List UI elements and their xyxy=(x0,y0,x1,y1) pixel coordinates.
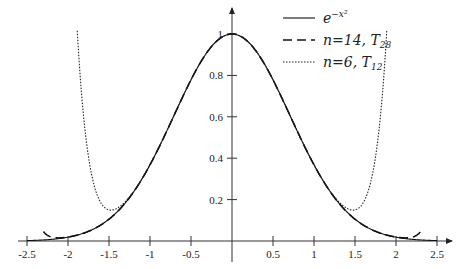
y-axis: 0.20.40.60.81 xyxy=(209,8,237,262)
x-tick: 0.5 xyxy=(266,236,280,260)
x-tick: 1 xyxy=(311,236,317,260)
legend-item: e−x² xyxy=(283,9,348,26)
y-tick: 0.2 xyxy=(209,194,237,206)
legend-item: n=14, T28 xyxy=(283,32,392,50)
x-tick-label: -1 xyxy=(145,248,154,260)
y-tick-label: 0.6 xyxy=(209,111,223,123)
y-tick-label: 0.8 xyxy=(209,69,223,81)
x-tick: 2 xyxy=(393,236,399,260)
x-tick-label: -2 xyxy=(63,248,72,260)
y-tick-label: 0.2 xyxy=(209,194,223,206)
chart: -2.5-2-1.5-1-0.50.511.522.5 0.20.40.60.8… xyxy=(0,0,457,269)
legend-item: n=6, T12 xyxy=(283,54,383,72)
legend-label: n=14, T28 xyxy=(323,32,392,50)
x-axis: -2.5-2-1.5-1-0.50.511.522.5 xyxy=(18,236,452,260)
y-tick: 0.6 xyxy=(209,111,237,123)
y-tick-label: 0.4 xyxy=(209,152,223,164)
x-ticks: -2.5-2-1.5-1-0.50.511.522.5 xyxy=(18,236,444,260)
x-tick: -2 xyxy=(63,236,72,260)
x-tick-label: 0.5 xyxy=(266,248,280,260)
x-tick: -2.5 xyxy=(18,236,36,260)
x-tick: 1.5 xyxy=(348,236,362,260)
x-tick: -1.5 xyxy=(100,236,118,260)
legend-label: n=6, T12 xyxy=(323,54,383,72)
y-tick: 0.8 xyxy=(209,69,237,81)
x-tick-label: -0.5 xyxy=(182,248,200,260)
x-tick: -0.5 xyxy=(182,236,200,260)
x-tick-label: 2.5 xyxy=(430,248,444,260)
x-tick-label: 2 xyxy=(393,248,399,260)
x-tick-label: -1.5 xyxy=(100,248,118,260)
x-tick-label: -2.5 xyxy=(18,248,36,260)
x-tick: -1 xyxy=(145,236,154,260)
x-tick-label: 1 xyxy=(311,248,317,260)
y-tick: 0.4 xyxy=(209,152,237,164)
legend-label: e−x² xyxy=(323,9,348,26)
x-tick-label: 1.5 xyxy=(348,248,362,260)
y-ticks: 0.20.40.60.81 xyxy=(209,28,237,206)
x-tick: 2.5 xyxy=(430,236,444,260)
legend: e−x²n=14, T28n=6, T12 xyxy=(283,9,392,72)
